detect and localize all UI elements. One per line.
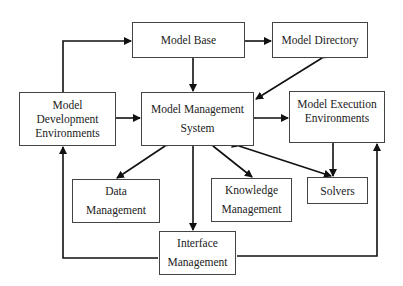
node-model-base: Model Base xyxy=(132,22,245,58)
node-interface-management: Interface Management xyxy=(159,231,236,275)
node-label: Data xyxy=(105,182,127,201)
node-label: Environments xyxy=(35,126,100,140)
node-knowledge-management: Knowledge Management xyxy=(211,178,292,222)
node-label: Model xyxy=(52,98,82,112)
node-model-development-environments: Model Development Environments xyxy=(19,92,116,146)
node-data-management: Data Management xyxy=(72,179,160,223)
edge-devenv-to-modelbase xyxy=(63,41,131,92)
node-label: Management xyxy=(167,253,227,272)
node-label: Management xyxy=(221,200,281,219)
node-label: Model Management xyxy=(151,100,244,119)
node-label: Interface xyxy=(177,234,218,253)
node-solvers: Solvers xyxy=(307,177,368,204)
node-label: Solvers xyxy=(320,184,355,198)
edge-mms-knowledge xyxy=(213,146,252,177)
node-model-management-system: Model Management System xyxy=(141,92,254,146)
node-label: Development xyxy=(37,112,99,126)
node-model-execution-environments: Model Execution Environments xyxy=(289,91,385,143)
node-label: Environments xyxy=(305,111,370,125)
node-label: Model Execution xyxy=(297,97,377,111)
edge-mms-solvers xyxy=(239,146,331,176)
node-label: System xyxy=(181,119,215,138)
node-label: Knowledge xyxy=(225,181,278,200)
node-label: Model Base xyxy=(161,33,216,47)
edge-mms-data xyxy=(117,146,165,178)
node-label: Model Directory xyxy=(282,33,359,47)
node-model-directory: Model Directory xyxy=(272,22,368,58)
node-label: Management xyxy=(86,201,146,220)
